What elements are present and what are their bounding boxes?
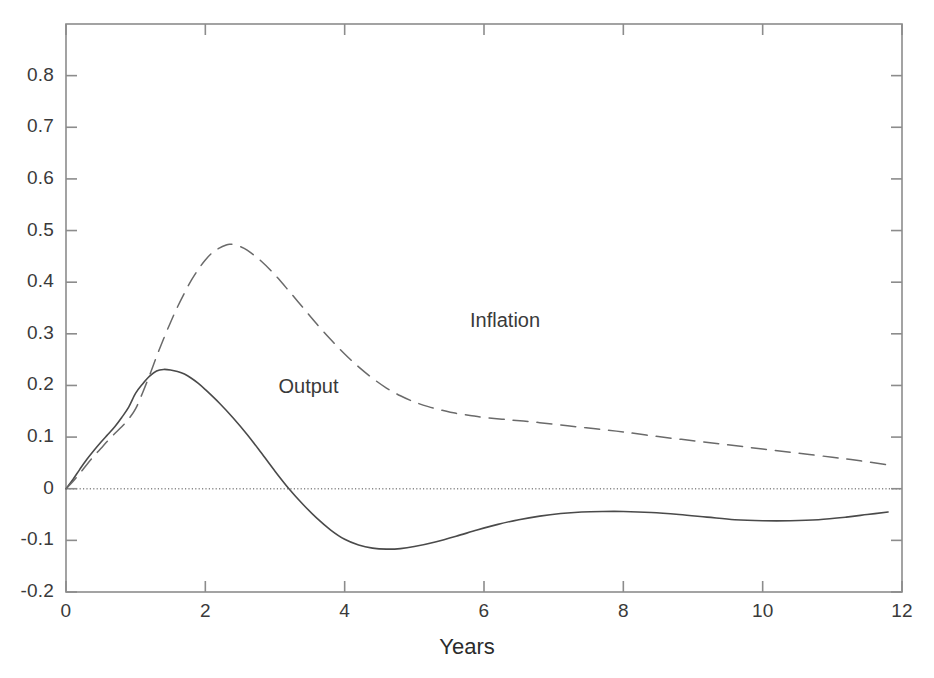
y-tick-label: 0 — [43, 477, 54, 499]
y-tick-label: 0.8 — [27, 64, 54, 86]
series-line-inflation — [66, 244, 888, 489]
x-tick-label: 4 — [315, 600, 375, 622]
x-tick-label: 12 — [872, 600, 932, 622]
x-tick-label: 0 — [36, 600, 96, 622]
plot-canvas — [0, 0, 934, 678]
series-label-inflation: Inflation — [470, 309, 540, 332]
x-tick-label: 6 — [454, 600, 514, 622]
chart-figure: -0.2-0.100.10.20.30.40.50.60.70.8 024681… — [0, 0, 934, 678]
x-axis-title: Years — [0, 634, 934, 660]
y-tick-label: 0.2 — [27, 373, 54, 395]
series-label-output: Output — [278, 375, 338, 398]
series-line-output — [66, 369, 888, 549]
y-tick-label: 0.5 — [27, 219, 54, 241]
y-tick-label: 0.6 — [27, 167, 54, 189]
x-tick-label: 8 — [593, 600, 653, 622]
y-tick-label: 0.4 — [27, 270, 54, 292]
data-series-group — [66, 244, 888, 549]
x-tick-label: 10 — [733, 600, 793, 622]
y-tick-label: -0.1 — [20, 528, 54, 550]
y-tick-label: -0.2 — [20, 580, 54, 602]
y-tick-label: 0.7 — [27, 115, 54, 137]
y-tick-label: 0.1 — [27, 425, 54, 447]
y-axis-ticks — [66, 76, 902, 592]
y-tick-label: 0.3 — [27, 322, 54, 344]
x-tick-label: 2 — [175, 600, 235, 622]
